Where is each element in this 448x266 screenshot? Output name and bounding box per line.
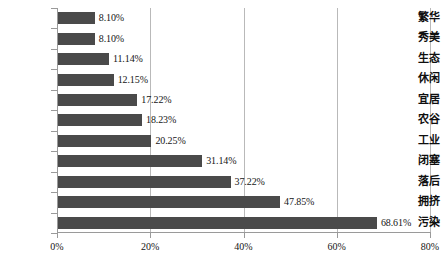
category-label-0: 繁华 bbox=[392, 8, 440, 28]
bar-value-label: 37.22% bbox=[235, 173, 265, 191]
x-axis-tick-label: 0% bbox=[50, 240, 63, 253]
plot-area: 8.10%8.10%11.14%12.15%17.22%18.23%20.25%… bbox=[57, 8, 430, 233]
bar-value-label: 11.14% bbox=[113, 50, 143, 68]
bar-row: 18.23% bbox=[57, 110, 430, 130]
bar-row: 31.14% bbox=[57, 151, 430, 171]
category-label-5: 农谷 bbox=[392, 110, 440, 130]
category-tick-mark bbox=[51, 233, 57, 234]
bar-value-label: 17.22% bbox=[141, 91, 171, 109]
bar-row: 17.22% bbox=[57, 90, 430, 110]
category-tick-mark bbox=[51, 110, 57, 111]
category-label-1: 秀美 bbox=[392, 28, 440, 48]
bar-row: 68.61% bbox=[57, 213, 430, 233]
bar bbox=[57, 74, 114, 86]
category-tick-mark bbox=[51, 151, 57, 152]
category-label-6: 工业 bbox=[392, 131, 440, 151]
category-label-10: 污染 bbox=[392, 213, 440, 233]
bar-value-label: 8.10% bbox=[99, 9, 124, 27]
x-tick-mark bbox=[430, 233, 431, 238]
category-axis-line bbox=[57, 8, 58, 233]
bar-row: 12.15% bbox=[57, 69, 430, 89]
bar-value-label: 18.23% bbox=[146, 111, 176, 129]
category-label-8: 落后 bbox=[392, 172, 440, 192]
bar bbox=[57, 53, 109, 65]
bar-row: 8.10% bbox=[57, 8, 430, 28]
category-label-7: 闭塞 bbox=[392, 151, 440, 171]
bar-value-label: 20.25% bbox=[155, 132, 185, 150]
x-axis-tick-label: 80% bbox=[421, 240, 439, 253]
x-axis-tick-label: 20% bbox=[141, 240, 159, 253]
category-tick-mark bbox=[51, 213, 57, 214]
category-tick-mark bbox=[51, 192, 57, 193]
x-axis-tick-label: 60% bbox=[328, 240, 346, 253]
bar-value-label: 12.15% bbox=[118, 71, 148, 89]
bar-row: 11.14% bbox=[57, 49, 430, 69]
bar bbox=[57, 196, 280, 208]
bar bbox=[57, 176, 231, 188]
category-tick-mark bbox=[51, 69, 57, 70]
bar-value-label: 31.14% bbox=[206, 152, 236, 170]
x-tick-mark bbox=[244, 233, 245, 238]
bar-value-label: 47.85% bbox=[284, 193, 314, 211]
category-tick-mark bbox=[51, 172, 57, 173]
bar-row: 20.25% bbox=[57, 131, 430, 151]
bar-row: 47.85% bbox=[57, 192, 430, 212]
category-tick-mark bbox=[51, 131, 57, 132]
category-label-3: 休闲 bbox=[392, 69, 440, 89]
bar-row: 8.10% bbox=[57, 28, 430, 48]
bar bbox=[57, 217, 377, 229]
bar bbox=[57, 12, 95, 24]
bar-chart: 8.10%8.10%11.14%12.15%17.22%18.23%20.25%… bbox=[0, 0, 448, 266]
category-tick-mark bbox=[51, 8, 57, 9]
category-tick-mark bbox=[51, 28, 57, 29]
bar-row: 37.22% bbox=[57, 172, 430, 192]
x-tick-mark bbox=[57, 233, 58, 238]
category-label-9: 拥挤 bbox=[392, 192, 440, 212]
x-tick-mark bbox=[337, 233, 338, 238]
bar bbox=[57, 94, 137, 106]
x-axis-tick-label: 40% bbox=[234, 240, 252, 253]
category-label-4: 宜居 bbox=[392, 90, 440, 110]
category-label-2: 生态 bbox=[392, 49, 440, 69]
bar bbox=[57, 155, 202, 167]
bar bbox=[57, 114, 142, 126]
bar-value-label: 8.10% bbox=[99, 30, 124, 48]
category-tick-mark bbox=[51, 90, 57, 91]
bar bbox=[57, 33, 95, 45]
bar bbox=[57, 135, 151, 147]
category-tick-mark bbox=[51, 49, 57, 50]
x-tick-mark bbox=[150, 233, 151, 238]
